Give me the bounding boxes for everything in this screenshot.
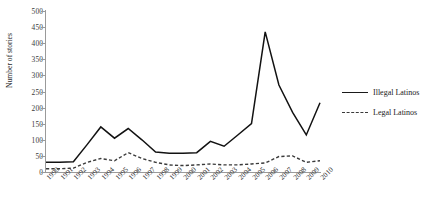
legend-item-1[interactable]: Illegal Latinos — [342, 88, 446, 97]
chart-legend: Illegal LatinosLegal Latinos — [342, 88, 446, 128]
legend-item-2[interactable]: Legal Latinos — [342, 108, 446, 117]
series-line-illegal-latinos — [46, 32, 320, 162]
legend-label: Illegal Latinos — [373, 88, 419, 97]
series-line-legal-latinos — [46, 153, 320, 169]
line-chart: Number of stories 0501001502002503003504… — [0, 0, 446, 217]
legend-swatch-solid-line-icon — [342, 92, 368, 93]
legend-swatch-dashed-line-icon — [342, 112, 368, 113]
legend-label: Legal Latinos — [373, 108, 417, 117]
